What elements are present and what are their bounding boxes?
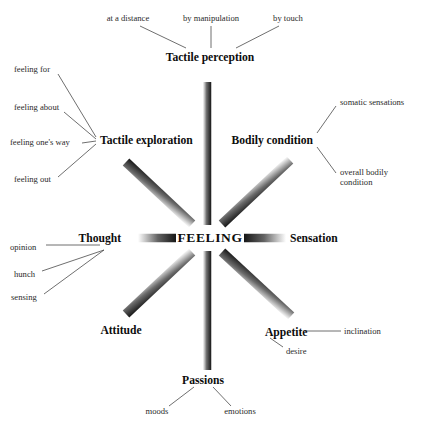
- ray-appetite: [219, 249, 294, 320]
- leaf-label-desire: desire: [286, 347, 307, 357]
- leaf-label-hunch: hunch: [14, 270, 35, 280]
- conn-feeling-out: [58, 144, 96, 177]
- ray-thought: [138, 234, 176, 243]
- branch-label-thought: Thought: [78, 232, 121, 245]
- branch-label-bodily-condition: Bodily condition: [231, 134, 313, 147]
- conn-somatic-sensations: [317, 106, 336, 133]
- conn-at-a-distance: [140, 26, 186, 48]
- diagram-canvas: [0, 0, 428, 428]
- conn-hunch: [42, 250, 104, 271]
- leaf-label-by-touch: by touch: [273, 14, 303, 24]
- conn-by-touch: [236, 26, 279, 48]
- ray-bodily-condition: [219, 157, 294, 228]
- leaf-label-inclination: inclination: [344, 327, 381, 337]
- leaf-label-emotions: emotions: [224, 407, 256, 417]
- leaf-label-feeling-ones-way: feeling one's way: [10, 138, 70, 148]
- conn-feeling-ones-way: [82, 141, 96, 143]
- leaf-label-feeling-for: feeling for: [14, 65, 50, 75]
- conn-feeling-about: [64, 112, 96, 139]
- leaf-label-overall-bodily-condition: overall bodily condition: [340, 168, 398, 187]
- leaf-label-sensing: sensing: [11, 293, 37, 303]
- ray-tactile-exploration: [123, 159, 196, 228]
- branch-label-appetite: Appetite: [265, 326, 308, 339]
- conn-feeling-for: [58, 74, 96, 137]
- conn-overall-bodily: [317, 147, 336, 173]
- leaf-label-opinion: opinion: [10, 243, 36, 253]
- feeling-semantic-diagram: Tactile perceptionat a distanceby manipu…: [0, 0, 428, 428]
- conn-desire: [270, 338, 283, 347]
- leaf-label-by-manipulation: by manipulation: [183, 14, 239, 24]
- conn-emotions: [213, 387, 231, 406]
- branch-label-tactile-perception: Tactile perception: [166, 51, 255, 64]
- leaf-label-moods: moods: [146, 407, 169, 417]
- conn-moods: [169, 387, 194, 406]
- hub-label-feeling: FEELING: [178, 230, 243, 245]
- ray-sensation: [244, 234, 286, 243]
- branch-label-tactile-exploration: Tactile exploration: [100, 134, 193, 147]
- branch-label-sensation: Sensation: [290, 232, 338, 245]
- branch-label-attitude: Attitude: [100, 324, 141, 337]
- ray-attitude: [123, 249, 196, 318]
- conn-sensing: [44, 250, 104, 294]
- leaf-label-at-a-distance: at a distance: [107, 14, 149, 24]
- ray-tactile-perception: [203, 82, 212, 225]
- leaf-label-feeling-about: feeling about: [14, 103, 59, 113]
- ray-passions: [203, 251, 212, 370]
- branch-label-passions: Passions: [182, 374, 224, 387]
- leaf-label-feeling-out: feeling out: [14, 175, 51, 185]
- leaf-label-somatic-sensations: somatic sensations: [340, 98, 404, 108]
